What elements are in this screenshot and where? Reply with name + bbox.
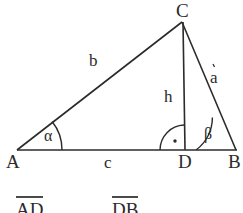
segment-CD-altitude xyxy=(183,22,185,150)
footer-term-AD: AD xyxy=(16,196,43,213)
side-label-a: a xyxy=(210,69,218,86)
vertex-label-D: D xyxy=(178,152,192,171)
angle-label-alpha: α xyxy=(44,128,52,144)
tick-mark-near-a xyxy=(213,64,215,67)
triangle-diagram xyxy=(0,0,243,213)
angle-arc-alpha xyxy=(52,122,62,151)
right-angle-arc xyxy=(160,125,184,150)
side-label-c: c xyxy=(104,154,112,171)
vertex-label-B: B xyxy=(228,152,241,171)
footer-term-DB: DB xyxy=(112,196,138,213)
vertex-label-A: A xyxy=(6,152,20,171)
right-angle-dot-icon xyxy=(173,139,176,142)
vertex-label-C: C xyxy=(176,1,189,20)
angle-label-beta: β xyxy=(204,126,212,142)
footer-terms-row: AD DB xyxy=(0,196,243,213)
side-label-h: h xyxy=(164,88,173,105)
segment-AC xyxy=(17,22,182,150)
side-label-b: b xyxy=(89,52,98,69)
